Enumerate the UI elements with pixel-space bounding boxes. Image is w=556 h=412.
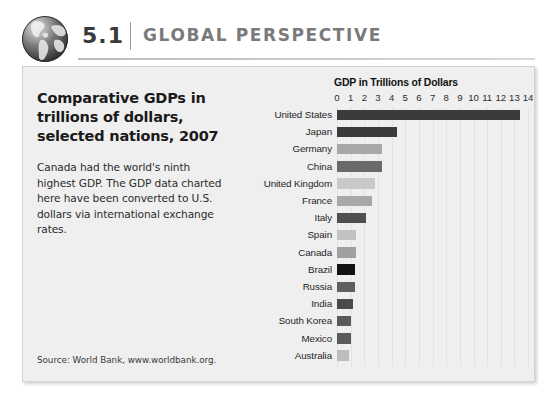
- chapter-number: 5.1: [82, 23, 124, 48]
- bar: [337, 264, 355, 275]
- x-tick-label: 0: [334, 92, 339, 103]
- bar: [337, 144, 382, 155]
- chart-row: Australia: [219, 348, 529, 365]
- x-tick-label: 2: [362, 92, 367, 103]
- bar: [337, 127, 397, 138]
- category-label: Russia: [219, 281, 332, 292]
- chart-row: Russia: [219, 279, 529, 296]
- chart-row: United States: [219, 107, 529, 124]
- bar-chart: GDP in Trillions of Dollars 012345678910…: [219, 77, 529, 377]
- chart-row: France: [219, 193, 529, 210]
- category-label: Mexico: [219, 333, 332, 344]
- x-tick-label: 4: [389, 92, 394, 103]
- figure-title: Comparative GDPs in trillions of dollars…: [37, 89, 225, 146]
- category-label: Australia: [219, 350, 332, 361]
- chart-row: South Korea: [219, 313, 529, 330]
- bar: [337, 178, 375, 189]
- x-tick-label: 9: [457, 92, 462, 103]
- description-column: Comparative GDPs in trillions of dollars…: [37, 89, 225, 238]
- x-tick-label: 14: [523, 92, 534, 103]
- x-tick-label: 11: [482, 92, 492, 103]
- x-axis: 01234567891011121314: [219, 92, 529, 105]
- x-tick-label: 13: [509, 92, 520, 103]
- x-tick-label: 7: [430, 92, 435, 103]
- bar: [337, 282, 355, 293]
- bar: [337, 196, 372, 207]
- chart-row: Mexico: [219, 331, 529, 348]
- bar: [337, 110, 520, 121]
- x-tick-label: 6: [416, 92, 421, 103]
- figure-container: 5.1 GLOBAL PERSPECTIVE Comparative GDPs …: [0, 0, 556, 412]
- chart-row: India: [219, 296, 529, 313]
- x-tick-label: 12: [495, 92, 506, 103]
- category-label: United States: [219, 109, 332, 120]
- x-tick-label: 5: [403, 92, 408, 103]
- category-label: India: [219, 298, 332, 309]
- bar: [337, 350, 349, 361]
- chart-row: Canada: [219, 245, 529, 262]
- category-label: Canada: [219, 247, 332, 258]
- category-label: France: [219, 195, 332, 206]
- category-label: Brazil: [219, 264, 332, 275]
- x-tick-label: 1: [348, 92, 353, 103]
- header-divider: [130, 22, 131, 50]
- category-label: United Kingdom: [219, 178, 332, 189]
- page-title: GLOBAL PERSPECTIVE: [143, 25, 382, 45]
- chart-row: Italy: [219, 210, 529, 227]
- source-note: Source: World Bank, www.worldbank.org.: [37, 355, 216, 365]
- category-label: Italy: [219, 212, 332, 223]
- chart-plot-area: United StatesJapanGermanyChinaUnited Kin…: [219, 107, 529, 369]
- chart-row: China: [219, 159, 529, 176]
- header-rule: [78, 58, 535, 60]
- chart-row: Brazil: [219, 262, 529, 279]
- category-label: South Korea: [219, 315, 332, 326]
- chart-row: Spain: [219, 227, 529, 244]
- bar: [337, 316, 351, 327]
- chart-row: Germany: [219, 141, 529, 158]
- chart-row: Japan: [219, 124, 529, 141]
- category-label: Germany: [219, 143, 332, 154]
- figure-panel: Comparative GDPs in trillions of dollars…: [22, 66, 535, 382]
- bar: [337, 333, 351, 344]
- figure-description: Canada had the world's ninth highest GDP…: [37, 160, 225, 238]
- x-tick-label: 3: [375, 92, 380, 103]
- figure-header: 5.1 GLOBAL PERSPECTIVE: [22, 16, 535, 62]
- category-label: Japan: [219, 126, 332, 137]
- bar: [337, 213, 366, 224]
- bar: [337, 299, 353, 310]
- bar: [337, 161, 382, 172]
- bar: [337, 230, 356, 241]
- x-tick-label: 10: [468, 92, 479, 103]
- chart-title: GDP in Trillions of Dollars: [219, 77, 529, 88]
- globe-icon: [22, 16, 68, 62]
- chart-row: United Kingdom: [219, 176, 529, 193]
- category-label: Spain: [219, 229, 332, 240]
- bar: [337, 247, 356, 258]
- category-label: China: [219, 161, 332, 172]
- x-tick-label: 8: [444, 92, 449, 103]
